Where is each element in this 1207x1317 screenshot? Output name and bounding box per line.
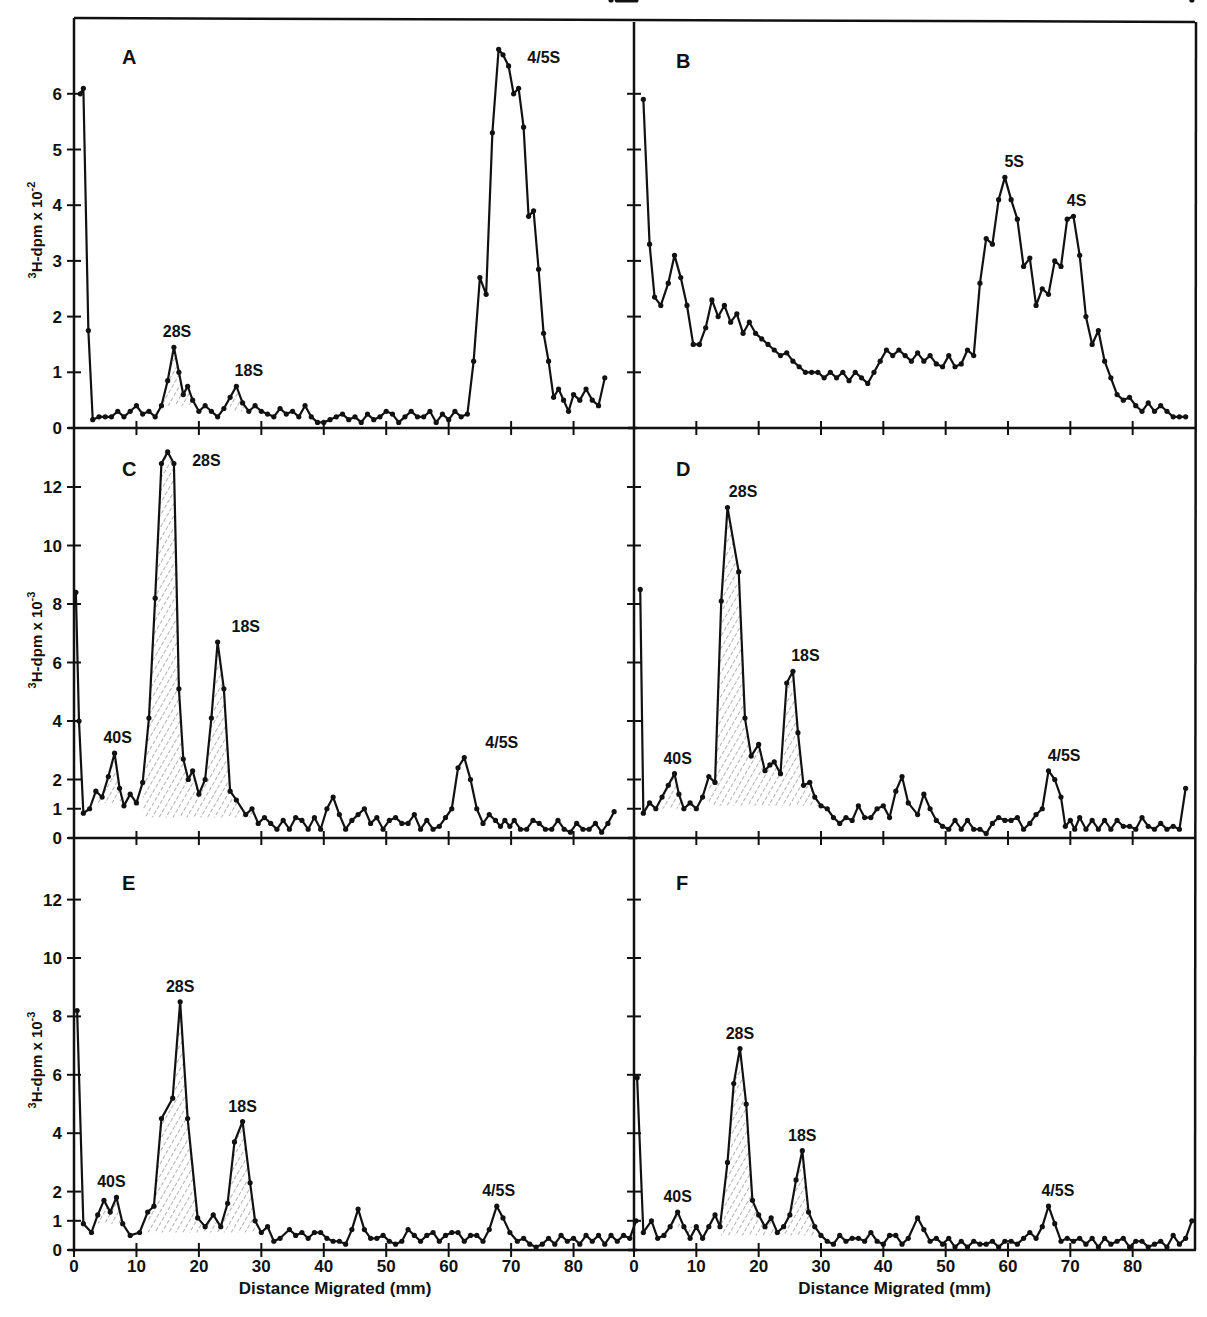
- data-point: [959, 827, 964, 832]
- data-point: [405, 1227, 410, 1232]
- data-point: [765, 342, 770, 347]
- data-point: [151, 1204, 156, 1209]
- data-point: [959, 361, 964, 366]
- data-point: [1139, 409, 1144, 414]
- data-point: [641, 97, 646, 102]
- data-point: [81, 811, 86, 816]
- data-point: [915, 1215, 920, 1220]
- data-point: [315, 420, 320, 425]
- data-point: [996, 1244, 1001, 1249]
- data-point: [676, 792, 681, 797]
- peak-annotation: 18S: [228, 1098, 257, 1115]
- data-point: [484, 292, 489, 297]
- data-point: [965, 1244, 970, 1249]
- data-point: [700, 1236, 705, 1241]
- y-axis-title: 3H-dpm x 10-3: [25, 592, 45, 689]
- panel-e: 012468101201020304050607080Distance Migr…: [25, 840, 639, 1298]
- data-point: [1139, 815, 1144, 820]
- data-point: [605, 821, 610, 826]
- data-point: [590, 398, 595, 403]
- data-point: [437, 1239, 442, 1244]
- data-point: [1063, 824, 1068, 829]
- shaded-peak-area: [148, 1002, 262, 1233]
- x-tick-label: 60: [439, 1257, 458, 1276]
- data-point: [1189, 0, 1194, 3]
- data-point: [1152, 409, 1157, 414]
- data-point: [1046, 292, 1051, 297]
- data-point: [121, 803, 126, 808]
- peak-annotation: 40S: [103, 729, 132, 746]
- data-point: [1146, 400, 1151, 405]
- data-point: [800, 1148, 805, 1153]
- data-point: [1114, 392, 1119, 397]
- data-point: [875, 1239, 880, 1244]
- x-tick-label: 30: [252, 1257, 271, 1276]
- data-point: [424, 818, 429, 823]
- data-point: [418, 1239, 423, 1244]
- data-point: [284, 411, 289, 416]
- data-point: [221, 686, 226, 691]
- data-point: [246, 409, 251, 414]
- data-point: [1108, 375, 1113, 380]
- data-point: [203, 403, 208, 408]
- data-point: [1158, 821, 1163, 826]
- data-point: [775, 1230, 780, 1235]
- data-point: [1033, 303, 1038, 308]
- data-point: [1021, 1236, 1026, 1241]
- peak-annotation: 18S: [788, 1127, 817, 1144]
- data-point: [531, 208, 536, 213]
- data-point: [846, 378, 851, 383]
- data-point: [87, 806, 92, 811]
- data-point: [688, 800, 693, 805]
- data-point: [1108, 1242, 1113, 1247]
- data-point: [781, 1224, 786, 1229]
- peak-annotation: 28S: [192, 452, 221, 469]
- data-point: [418, 827, 423, 832]
- data-point: [1127, 395, 1132, 400]
- data-point: [146, 715, 151, 720]
- y-tick-label: 12: [43, 891, 62, 910]
- data-point: [952, 818, 957, 823]
- data-point: [159, 403, 164, 408]
- data-point: [437, 824, 442, 829]
- data-point: [856, 803, 861, 808]
- data-point: [121, 414, 126, 419]
- data-point: [749, 754, 754, 759]
- data-point: [1139, 1239, 1144, 1244]
- data-point: [393, 1242, 398, 1247]
- data-point: [117, 786, 122, 791]
- data-point: [736, 569, 741, 574]
- data-point: [884, 347, 889, 352]
- data-point: [927, 806, 932, 811]
- data-point: [234, 797, 239, 802]
- data-point: [801, 783, 806, 788]
- data-point: [558, 1233, 563, 1238]
- data-point: [234, 384, 239, 389]
- data-point: [1183, 786, 1188, 791]
- data-point: [647, 800, 652, 805]
- data-point: [487, 812, 492, 817]
- data-point: [221, 406, 226, 411]
- data-point: [984, 236, 989, 241]
- peak-annotation: 5S: [1004, 153, 1024, 170]
- y-tick-label: 0: [53, 829, 62, 848]
- data-point: [772, 759, 777, 764]
- data-point: [1040, 806, 1045, 811]
- data-point: [703, 325, 708, 330]
- data-point: [596, 403, 601, 408]
- data-point: [1058, 794, 1063, 799]
- data-point: [608, 1233, 613, 1238]
- data-point: [691, 342, 696, 347]
- data-point: [807, 780, 812, 785]
- data-point: [672, 771, 677, 776]
- data-point: [1009, 818, 1014, 823]
- data-point: [1146, 1244, 1151, 1249]
- peak-annotation: 18S: [235, 362, 264, 379]
- data-point: [812, 1224, 817, 1229]
- data-point: [666, 783, 671, 788]
- data-point: [977, 827, 982, 832]
- data-point: [668, 1224, 673, 1229]
- y-tick-label: 2: [53, 1183, 62, 1202]
- data-point: [831, 815, 836, 820]
- data-point: [744, 1101, 749, 1106]
